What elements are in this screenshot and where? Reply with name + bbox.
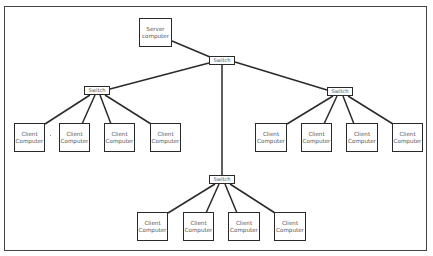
connection-line — [225, 184, 237, 213]
client-computer-bottom-3: Client Computer — [228, 212, 260, 241]
client-computer-right-3: Client Computer — [346, 123, 378, 152]
client-label-line2: Computer — [152, 138, 180, 144]
connection-line — [110, 63, 209, 89]
client-label-line2: Computer — [139, 227, 167, 233]
switch-label: Switch — [213, 177, 230, 183]
client-computer-bottom-2: Client Computer — [183, 212, 214, 241]
client-label-line2: Computer — [61, 138, 89, 144]
connection-line — [235, 62, 327, 90]
client-computer-bottom-4: Client Computer — [274, 212, 306, 241]
client-computer-left-1: Client Computer — [14, 123, 45, 152]
connection-line — [230, 184, 275, 213]
connection-line — [105, 95, 151, 124]
switch-label: Switch — [331, 89, 348, 95]
switch-left: Switch — [84, 86, 110, 95]
scan-artifact-dot — [50, 135, 51, 136]
client-label-line2: Computer — [394, 138, 422, 144]
switch-bottom: Switch — [209, 175, 235, 184]
client-label-line2: Computer — [303, 138, 331, 144]
client-label-line2: Computer — [257, 138, 285, 144]
connection-line — [348, 96, 393, 124]
client-computer-right-2: Client Computer — [301, 123, 332, 152]
client-computer-bottom-1: Client Computer — [137, 212, 168, 241]
connection-line — [100, 95, 111, 124]
client-label-line2: Computer — [230, 227, 258, 233]
client-label-line2: Computer — [16, 138, 44, 144]
connection-line — [172, 41, 210, 57]
server-computer-node: Server computer — [139, 18, 172, 47]
switch-main: Switch — [209, 56, 235, 65]
client-computer-right-1: Client Computer — [255, 123, 287, 152]
client-computer-left-2: Client Computer — [59, 123, 90, 152]
client-label-line2: Computer — [106, 138, 134, 144]
client-computer-left-4: Client Computer — [150, 123, 181, 152]
switch-right: Switch — [327, 87, 353, 96]
client-computer-right-4: Client Computer — [392, 123, 423, 152]
client-label-line2: Computer — [185, 227, 213, 233]
client-computer-left-3: Client Computer — [104, 123, 135, 152]
client-label-line2: Computer — [348, 138, 376, 144]
client-label-line2: Computer — [276, 227, 304, 233]
switch-label: Switch — [88, 88, 105, 94]
server-label-line2: computer — [142, 33, 169, 39]
switch-label: Switch — [213, 58, 230, 64]
connection-line — [343, 96, 354, 124]
